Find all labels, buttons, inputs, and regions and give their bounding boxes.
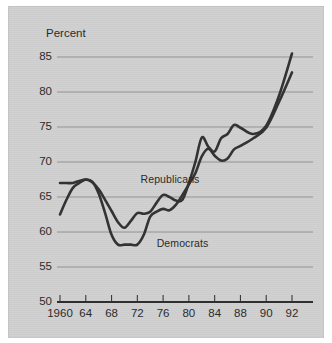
x-tick-label: 72 xyxy=(131,307,144,319)
x-tick-label: 90 xyxy=(260,307,273,319)
x-tick-label: 68 xyxy=(105,307,118,319)
y-tick-label: 75 xyxy=(26,120,52,132)
y-tick-label: 60 xyxy=(26,225,52,237)
gridlines-group xyxy=(57,57,313,267)
x-tick-label: 64 xyxy=(79,307,92,319)
y-axis-title: Percent xyxy=(46,27,86,39)
series-line-democrats xyxy=(60,72,292,245)
chart-figure: Percent 8580757065605550 196064687276808… xyxy=(0,0,332,343)
x-tick-label: 88 xyxy=(234,307,247,319)
series-annotation-democrats: Democrats xyxy=(157,237,209,249)
y-tick-label: 55 xyxy=(26,260,52,272)
y-tick-label: 70 xyxy=(26,155,52,167)
x-tick-label: 80 xyxy=(182,307,195,319)
x-tick-label: 84 xyxy=(208,307,221,319)
x-tick-label: 76 xyxy=(157,307,170,319)
y-tick-label: 85 xyxy=(26,50,52,62)
y-tick-label: 50 xyxy=(26,295,52,307)
x-tick-label: 1960 xyxy=(47,307,73,319)
series-annotation-republicans: Republicans xyxy=(141,173,200,185)
y-tick-label: 65 xyxy=(26,190,52,202)
series-line-republicans xyxy=(60,54,292,228)
x-tick-label: 92 xyxy=(286,307,299,319)
series-lines-group xyxy=(60,54,292,246)
y-tick-label: 80 xyxy=(26,85,52,97)
